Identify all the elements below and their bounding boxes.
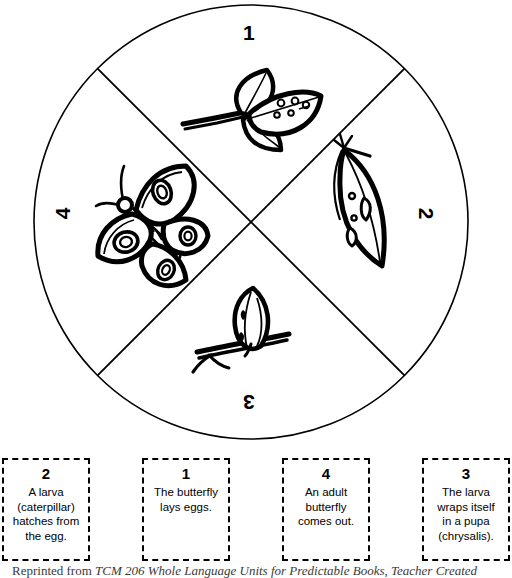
- card-text: The butterfly lays eggs.: [144, 485, 228, 514]
- sequencing-card[interactable]: 1 The butterfly lays eggs.: [142, 458, 230, 561]
- sequencing-card[interactable]: 3 The larva wraps itself in a pupa (chry…: [422, 458, 510, 561]
- wheel-graphic: [0, 0, 512, 450]
- card-number: 4: [284, 465, 368, 482]
- wheel-quadrant-number-1: 1: [243, 22, 255, 43]
- sequencing-card[interactable]: 4 An adult butterfly comes out.: [282, 458, 370, 561]
- sequencing-card[interactable]: 2 A larva (caterpillar) hatches from the…: [2, 458, 90, 561]
- sequencing-card-row: 2 A larva (caterpillar) hatches from the…: [0, 455, 512, 565]
- wheel-quadrant-number-3: 3: [243, 392, 255, 413]
- card-number: 1: [144, 465, 228, 482]
- card-text: The larva wraps itself in a pupa (chrysa…: [424, 485, 508, 543]
- footer-prefix: Reprinted from: [12, 563, 95, 578]
- wheel-quadrant-number-2: 2: [416, 208, 437, 220]
- footer-attribution: Reprinted from TCM 206 Whole Language Un…: [12, 563, 512, 578]
- footer-publisher: Teacher Created: [391, 563, 477, 578]
- wheel-quadrant-number-4: 4: [52, 208, 73, 220]
- spinner-wheel: 1 2 3 4: [0, 0, 512, 450]
- card-text: A larva (caterpillar) hatches from the e…: [4, 485, 88, 543]
- card-number: 2: [4, 465, 88, 482]
- card-number: 3: [424, 465, 508, 482]
- card-text: An adult butterfly comes out.: [284, 485, 368, 529]
- footer-source: TCM 206 Whole Language Units for Predict…: [95, 563, 384, 578]
